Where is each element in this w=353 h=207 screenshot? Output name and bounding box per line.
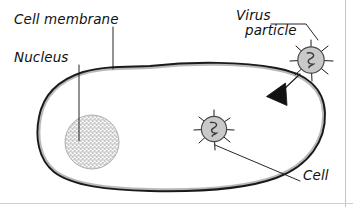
label-nucleus: Nucleus	[14, 50, 68, 65]
label-virus-particle-line1: Virus	[236, 7, 271, 23]
label-virus-particle-line2: particle	[236, 23, 297, 38]
cell-virus-diagram: Cell membrane Nucleus Virusparticle Cell	[0, 0, 353, 207]
virus-capsid-inside	[201, 116, 226, 141]
diagram-canvas	[0, 0, 353, 207]
label-virus-particle: Virusparticle	[236, 8, 297, 38]
nucleus-icon	[65, 115, 119, 169]
label-cell: Cell	[303, 168, 329, 183]
label-cell-membrane: Cell membrane	[14, 12, 119, 27]
virus-capsid-outside	[298, 47, 324, 73]
